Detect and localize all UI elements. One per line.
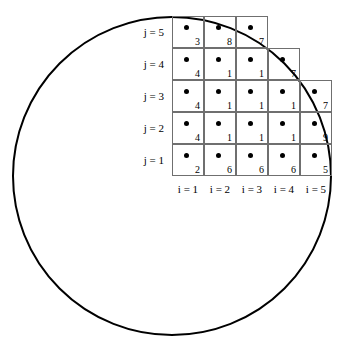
cell-value: 9 [323, 132, 328, 143]
node-dot-icon [280, 57, 285, 62]
lattice-cell: 6 [204, 144, 236, 176]
node-dot-icon [248, 153, 253, 158]
lattice-cell: 7 [236, 16, 268, 48]
lattice-cell: 1 [236, 48, 268, 80]
node-dot-icon [248, 57, 253, 62]
lattice-cell: 1 [268, 80, 300, 112]
node-dot-icon [280, 121, 285, 126]
cell-value: 4 [195, 100, 200, 111]
lattice-cell: 1 [204, 48, 236, 80]
cell-value: 2 [195, 164, 200, 175]
cell-value: 1 [227, 132, 232, 143]
row-label-j3: j = 3 [130, 90, 164, 102]
column-label-i1: i = 1 [172, 183, 204, 195]
lattice-cell: 4 [172, 80, 204, 112]
node-dot-icon [216, 57, 221, 62]
lattice-cell: 1 [268, 112, 300, 144]
lattice-cell: 4 [172, 48, 204, 80]
row-label-j2: j = 2 [130, 122, 164, 134]
node-dot-icon [184, 89, 189, 94]
node-dot-icon [184, 57, 189, 62]
lattice-cell: 8 [204, 16, 236, 48]
node-dot-icon [248, 25, 253, 30]
row-label-j1: j = 1 [130, 154, 164, 166]
cell-value: 1 [227, 68, 232, 79]
cell-value: 1 [259, 132, 264, 143]
row-label-j5: j = 5 [130, 26, 164, 38]
lattice-cell: 1 [204, 112, 236, 144]
node-dot-icon [216, 121, 221, 126]
cell-value: 4 [195, 68, 200, 79]
node-dot-icon [280, 89, 285, 94]
cell-value: 6 [291, 164, 296, 175]
lattice-cell: 6 [236, 144, 268, 176]
cell-value: 3 [195, 36, 200, 47]
cell-value: 1 [291, 132, 296, 143]
lattice-cell: 1 [236, 112, 268, 144]
figure-canvas: 3874117411174111926665 j = 5j = 4j = 3j … [0, 0, 350, 345]
column-label-i2: i = 2 [204, 183, 236, 195]
cell-value: 6 [259, 164, 264, 175]
lattice-cell: 3 [172, 16, 204, 48]
node-dot-icon [312, 89, 317, 94]
cell-value: 1 [259, 68, 264, 79]
cell-value: 1 [291, 100, 296, 111]
cell-value: 7 [259, 36, 264, 47]
cell-value: 8 [227, 36, 232, 47]
row-label-j4: j = 4 [130, 58, 164, 70]
lattice-cell: 2 [172, 144, 204, 176]
lattice-cell: 4 [172, 112, 204, 144]
node-dot-icon [216, 25, 221, 30]
cell-value: 4 [195, 132, 200, 143]
node-dot-icon [184, 153, 189, 158]
lattice-cell: 6 [268, 144, 300, 176]
lattice-cell: 1 [204, 80, 236, 112]
column-label-i4: i = 4 [268, 183, 300, 195]
cell-value: 5 [323, 164, 328, 175]
cell-value: 1 [259, 100, 264, 111]
lattice-cell: 1 [236, 80, 268, 112]
column-label-i5: i = 5 [300, 183, 332, 195]
column-label-i3: i = 3 [236, 183, 268, 195]
lattice-cell: 7 [300, 80, 332, 112]
node-dot-icon [248, 121, 253, 126]
node-dot-icon [248, 89, 253, 94]
node-dot-icon [312, 121, 317, 126]
lattice-cell: 9 [300, 112, 332, 144]
node-dot-icon [216, 153, 221, 158]
lattice-cell: 7 [268, 48, 300, 80]
cell-value: 7 [323, 100, 328, 111]
cell-value: 1 [227, 100, 232, 111]
node-dot-icon [184, 121, 189, 126]
cell-value: 7 [291, 68, 296, 79]
lattice-cell: 5 [300, 144, 332, 176]
cell-value: 6 [227, 164, 232, 175]
node-dot-icon [280, 153, 285, 158]
node-dot-icon [184, 25, 189, 30]
node-dot-icon [216, 89, 221, 94]
node-dot-icon [312, 153, 317, 158]
